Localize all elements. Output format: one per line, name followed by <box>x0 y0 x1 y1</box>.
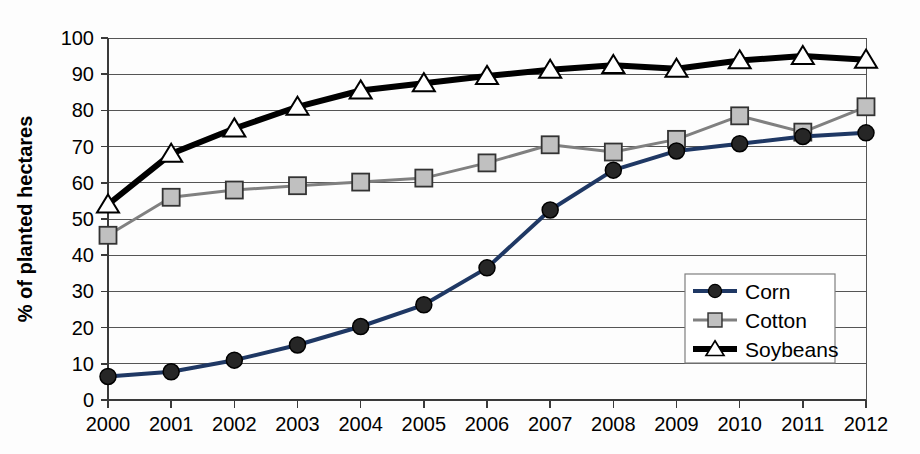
data-point-corn-2002 <box>226 352 242 368</box>
x-tick-label: 2004 <box>338 413 383 435</box>
data-point-corn-2010 <box>732 136 748 152</box>
x-tick-label: 2009 <box>654 413 699 435</box>
x-tick-label: 2003 <box>275 413 320 435</box>
data-point-corn-2000 <box>100 368 116 384</box>
data-point-legend-cotton <box>708 313 722 327</box>
line-chart: 0102030405060708090100 20002001200220032… <box>0 0 920 454</box>
data-point-legend-corn <box>708 284 721 297</box>
chart-legend: CornCottonSoybeans <box>685 274 838 363</box>
data-point-cotton-2006 <box>479 154 496 171</box>
x-tick-label: 2002 <box>212 413 257 435</box>
data-point-corn-2008 <box>605 162 621 178</box>
data-point-corn-2001 <box>163 364 179 380</box>
x-tick-label: 2006 <box>465 413 510 435</box>
y-tick-label: 60 <box>72 172 94 194</box>
series-cotton <box>100 98 875 244</box>
x-tick-label: 2005 <box>402 413 447 435</box>
y-axis-title: % of planted hectares <box>14 116 36 323</box>
data-point-cotton-2003 <box>289 177 306 194</box>
x-tick-label: 2011 <box>781 413 824 435</box>
legend-label-soybeans: Soybeans <box>745 338 838 361</box>
data-point-corn-2006 <box>479 260 495 276</box>
x-tick-label: 2001 <box>149 413 194 435</box>
data-point-cotton-2008 <box>605 144 622 161</box>
y-tick-label: 90 <box>72 63 94 85</box>
x-tick-label: 2012 <box>844 413 889 435</box>
data-point-corn-2005 <box>416 297 432 313</box>
data-point-cotton-2000 <box>100 227 117 244</box>
y-tick-label: 10 <box>72 353 94 375</box>
y-tick-labels-group: 0102030405060708090100 <box>61 27 94 411</box>
legend-label-corn: Corn <box>745 280 791 303</box>
x-tick-labels-group: 2000200120022003200420052006200720082009… <box>86 413 889 435</box>
chart-container: 0102030405060708090100 20002001200220032… <box>0 0 920 454</box>
y-tick-label: 40 <box>72 244 94 266</box>
y-axis-title-group: % of planted hectares <box>14 116 36 323</box>
data-point-cotton-2012 <box>858 98 875 115</box>
y-tick-label: 80 <box>72 99 94 121</box>
data-point-cotton-2010 <box>731 107 748 124</box>
y-tick-label: 30 <box>72 280 94 302</box>
series-soybeans <box>97 46 877 212</box>
y-axis-group <box>101 38 108 400</box>
x-tick-label: 2008 <box>591 413 636 435</box>
x-axis-group <box>108 400 866 408</box>
data-point-cotton-2005 <box>415 170 432 187</box>
data-point-cotton-2001 <box>163 189 180 206</box>
data-point-corn-2003 <box>290 337 306 353</box>
data-point-cotton-2007 <box>542 136 559 153</box>
y-tick-label: 50 <box>72 208 94 230</box>
legend-label-cotton: Cotton <box>745 309 807 332</box>
data-point-corn-2007 <box>542 202 558 218</box>
data-point-corn-2009 <box>669 143 685 159</box>
y-tick-label: 100 <box>61 27 94 49</box>
data-point-corn-2004 <box>353 319 369 335</box>
y-tick-label: 0 <box>83 389 94 411</box>
x-tick-label: 2007 <box>528 413 573 435</box>
data-point-cotton-2002 <box>226 182 243 199</box>
data-point-corn-2012 <box>858 125 874 141</box>
y-tick-label: 70 <box>72 136 94 158</box>
data-point-cotton-2004 <box>352 174 369 191</box>
y-tick-label: 20 <box>72 317 94 339</box>
x-tick-label: 2010 <box>717 413 762 435</box>
x-tick-label: 2000 <box>86 413 131 435</box>
data-point-corn-2011 <box>795 128 811 144</box>
